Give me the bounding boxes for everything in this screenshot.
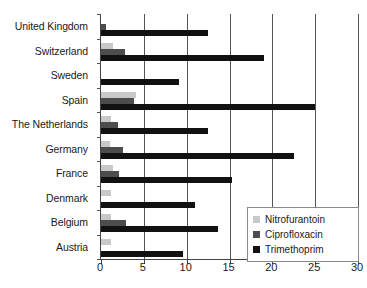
legend-swatch-icon (253, 216, 260, 223)
category-label: Denmark (0, 186, 94, 211)
bar (101, 202, 195, 208)
bar (101, 177, 232, 183)
bar (101, 239, 111, 245)
horizontal-bar-chart: United KingdomSwitzerlandSwedenSpainThe … (0, 0, 367, 288)
category-label: Spain (0, 88, 94, 113)
bar (101, 251, 183, 257)
bar (101, 153, 294, 159)
bar (101, 30, 208, 36)
bar (101, 104, 315, 110)
x-axis-tick-label: 25 (308, 262, 320, 273)
category-label: Germany (0, 137, 94, 162)
bar (101, 55, 264, 61)
category-axis-labels: United KingdomSwitzerlandSwedenSpainThe … (0, 14, 94, 259)
bar-group (101, 161, 358, 186)
category-label: Switzerland (0, 39, 94, 64)
legend-swatch-icon (253, 231, 260, 238)
x-axis-tick-label: 5 (140, 262, 146, 273)
x-axis-tick-label: 0 (97, 262, 103, 273)
legend-label: Ciprofloxacin (265, 230, 323, 240)
bar (101, 79, 179, 85)
x-axis-tick-label: 15 (222, 262, 234, 273)
bar (101, 128, 208, 134)
category-label: Sweden (0, 63, 94, 88)
x-axis-tick-label: 20 (265, 262, 277, 273)
category-label: United Kingdom (0, 14, 94, 39)
bar-group (101, 112, 358, 137)
chart-legend: NitrofurantoinCiprofloxacinTrimethoprim (247, 207, 359, 262)
bar (101, 190, 111, 196)
bar (101, 226, 218, 232)
bar-group (101, 14, 358, 39)
legend-label: Trimethoprim (265, 245, 324, 255)
legend-item[interactable]: Trimethoprim (253, 242, 353, 257)
legend-item[interactable]: Nitrofurantoin (253, 212, 353, 227)
category-label: Austria (0, 235, 94, 260)
x-axis-tick-labels: 051015202530 (100, 262, 357, 278)
legend-item[interactable]: Ciprofloxacin (253, 227, 353, 242)
bar-group (101, 88, 358, 113)
category-label: Belgium (0, 210, 94, 235)
bar-group (101, 39, 358, 64)
category-label: The Netherlands (0, 112, 94, 137)
bar-group (101, 137, 358, 162)
x-axis-tick-label: 10 (180, 262, 192, 273)
x-axis-tick-label: 30 (351, 262, 363, 273)
legend-label: Nitrofurantoin (265, 215, 325, 225)
legend-swatch-icon (253, 246, 260, 253)
bar-group (101, 63, 358, 88)
category-label: France (0, 161, 94, 186)
